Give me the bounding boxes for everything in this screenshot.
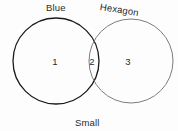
region-count-right-only: 3 <box>119 56 137 67</box>
diagram-caption-small: Small <box>75 117 100 128</box>
region-count-left-only: 1 <box>46 56 64 67</box>
region-count-intersection: 2 <box>83 56 101 67</box>
set-label-blue: Blue <box>46 2 66 13</box>
venn-diagram-figure: Blue Hexagon Small 1 2 3 <box>0 0 178 131</box>
